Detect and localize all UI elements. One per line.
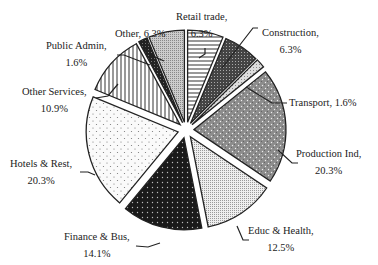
label-hotels: Hotels & Rest,20.3%	[10, 155, 72, 189]
label-publicadmin: Public Admin,1.6%	[46, 37, 107, 71]
label-educ: Educ & Health,12.5%	[248, 222, 314, 256]
leader-finance	[136, 243, 160, 247]
label-otherserv: Other Services,10.9%	[22, 83, 87, 117]
leader-hotels	[80, 172, 95, 175]
label-transport: Transport, 1.6%	[289, 94, 357, 111]
pie-slices	[86, 30, 286, 230]
label-construction: Construction,6.3%	[262, 24, 319, 58]
label-retail: Retail trade,6.3%	[176, 8, 227, 42]
label-production: Production Ind,20.3%	[296, 145, 361, 179]
label-finance: Finance & Bus,14.1%	[64, 228, 130, 262]
label-other: Other, 6.3%	[115, 25, 166, 42]
